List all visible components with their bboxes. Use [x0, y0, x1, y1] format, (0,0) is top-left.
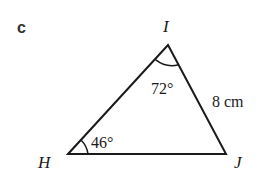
vertex-label-j: J [234, 153, 243, 172]
angle-label-i: 72° [151, 80, 173, 97]
side-label-ij: 8 cm [212, 93, 244, 110]
angle-arc-h [81, 140, 88, 154]
vertex-label-h: H [37, 153, 52, 172]
vertex-label-i: I [162, 17, 170, 36]
angle-arc-i [156, 60, 179, 66]
triangle-diagram: I H J 72° 46° 8 cm [0, 0, 265, 189]
angle-label-h: 46° [91, 134, 113, 151]
